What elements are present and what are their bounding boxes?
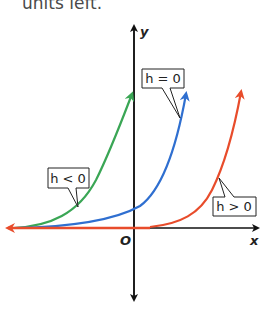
- origin-label: O: [120, 233, 131, 248]
- svg-text:h < 0: h < 0: [50, 171, 86, 186]
- svg-text:h = 0: h = 0: [145, 71, 181, 86]
- svg-text:h > 0: h > 0: [216, 199, 252, 214]
- label-h-positive: h > 0: [213, 178, 256, 216]
- exponential-translation-graph: h = 0 h < 0 h > 0 y x O: [0, 0, 273, 309]
- curve-h-negative: [14, 94, 132, 228]
- curve-h-zero: [14, 94, 186, 228]
- x-axis-label: x: [249, 233, 259, 248]
- y-axis-label: y: [140, 24, 149, 39]
- label-h-zero: h = 0: [142, 69, 184, 118]
- axes: [130, 26, 258, 300]
- label-h-negative: h < 0: [48, 168, 89, 207]
